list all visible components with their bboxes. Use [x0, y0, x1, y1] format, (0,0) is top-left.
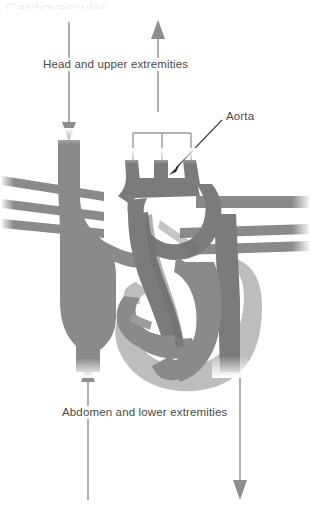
- label-aorta: Aorta: [224, 110, 256, 123]
- label-abdomen-and-lower-extremities: Abdomen and lower extremities: [60, 406, 229, 419]
- abdomen-supply-arrow: [233, 372, 247, 500]
- cardiac-circulation-diagram: [0, 0, 311, 517]
- head-return-arrow: [62, 22, 76, 141]
- abdomen-return-arrow: [81, 363, 95, 500]
- label-head-and-upper-extremities: Head and upper extremities: [41, 58, 190, 71]
